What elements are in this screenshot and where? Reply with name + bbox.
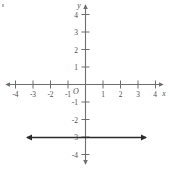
y-tick-label--2: -2 bbox=[72, 116, 78, 125]
x-tick-label--1: -1 bbox=[65, 90, 71, 99]
y-tick-label-4: 4 bbox=[74, 11, 78, 20]
y-tick-label--4: -4 bbox=[72, 151, 78, 160]
y-tick-label-2: 2 bbox=[74, 46, 78, 55]
axes-group bbox=[6, 5, 163, 164]
y-axis-label: y bbox=[76, 1, 81, 10]
x-tick-label-3: 3 bbox=[136, 90, 140, 99]
x-axis-label: x bbox=[161, 89, 166, 98]
y-tick-label--1: -1 bbox=[72, 98, 78, 107]
x-tick-label--2: -2 bbox=[47, 90, 53, 99]
y-tick-label-1: 1 bbox=[74, 63, 78, 72]
coordinate-plane-figure: -4 -3 -2 -1 1 2 3 4 4 3 2 1 -1 -2 -3 -4 … bbox=[0, 0, 170, 169]
y-tick-label-3: 3 bbox=[74, 28, 78, 37]
origin-label: O bbox=[73, 87, 79, 96]
x-tick-label--3: -3 bbox=[30, 90, 36, 99]
x-tick-label-2: 2 bbox=[119, 90, 123, 99]
x-tick-label-4: 4 bbox=[153, 90, 157, 99]
x-axis-tick-labels: -4 -3 -2 -1 1 2 3 4 bbox=[12, 90, 157, 99]
x-tick-label-1: 1 bbox=[101, 90, 105, 99]
graph-canvas: -4 -3 -2 -1 1 2 3 4 4 3 2 1 -1 -2 -3 -4 … bbox=[0, 0, 170, 169]
x-tick-label--4: -4 bbox=[12, 90, 18, 99]
